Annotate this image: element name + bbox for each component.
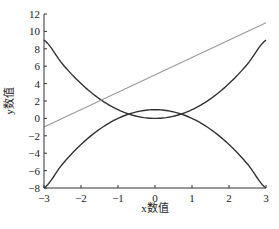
- series-line-1: [44, 110, 266, 188]
- series-line-0: [44, 40, 266, 118]
- y-tick-label: 6: [35, 60, 41, 72]
- y-tick-label: 0: [35, 112, 41, 124]
- x-tick-label: −2: [75, 192, 87, 204]
- y-axis-label: y数值: [3, 87, 15, 115]
- y-tick-label: 12: [29, 8, 40, 20]
- x-tick-label: 1: [189, 192, 195, 204]
- x-tick-label: 3: [263, 192, 269, 204]
- y-tick-label: 10: [29, 25, 41, 37]
- series-layer: [44, 23, 266, 188]
- line-chart: −8−6−4−2024681012−3−2−10123 x数值 y数值: [0, 0, 279, 229]
- x-axis-label: x数值: [141, 202, 169, 214]
- y-tick-label: −4: [28, 147, 40, 159]
- x-tick-label: −3: [38, 192, 50, 204]
- y-tick-label: 4: [35, 78, 41, 90]
- x-tick-label: 2: [226, 192, 232, 204]
- axes: −8−6−4−2024681012−3−2−10123: [28, 8, 269, 204]
- y-tick-label: −6: [28, 165, 40, 177]
- y-tick-label: 2: [35, 95, 41, 107]
- series-line-2: [44, 23, 266, 127]
- y-tick-label: −2: [28, 130, 40, 142]
- y-tick-label: 8: [35, 43, 41, 55]
- x-tick-label: −1: [112, 192, 124, 204]
